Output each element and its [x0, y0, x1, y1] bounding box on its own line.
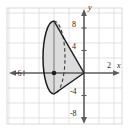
x-axis-label: x	[117, 62, 120, 70]
x-tick-label-neg6: -6	[15, 70, 21, 78]
y-tick-label-8: 8	[72, 21, 76, 29]
base-center-point	[52, 71, 57, 76]
y-axis-label: y	[88, 4, 91, 12]
x-tick-label-2: 2	[107, 62, 111, 70]
y-tick-label-4: 4	[72, 43, 76, 51]
cone-graph-figure: y x 8 4 -4 -8 -6 2	[0, 0, 129, 131]
y-tick-label-neg8: -8	[70, 110, 76, 118]
y-tick-label-neg4: -4	[70, 88, 76, 96]
